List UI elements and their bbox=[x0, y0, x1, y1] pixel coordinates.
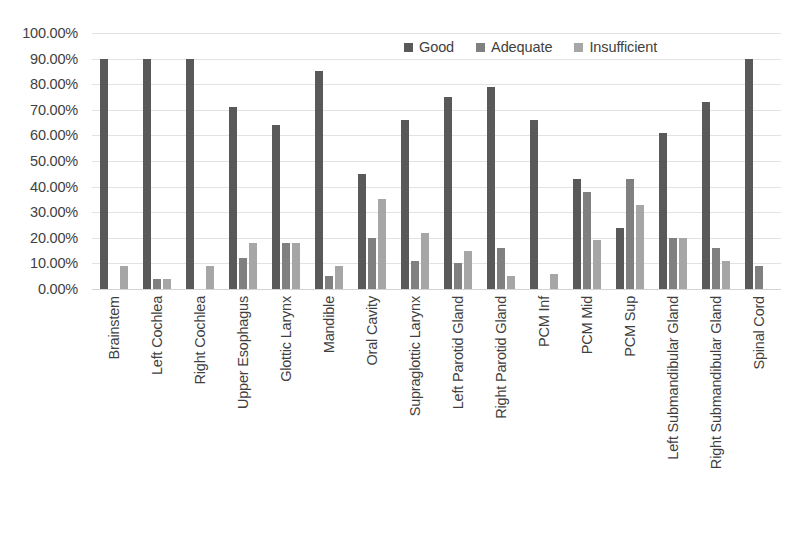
bar-adequate bbox=[325, 276, 333, 289]
legend-label: Adequate bbox=[491, 39, 552, 55]
y-axis: 100.00%90.00%80.00%70.00%60.00%50.00%40.… bbox=[0, 33, 86, 289]
x-axis-tick-label: Supraglottic Larynx bbox=[407, 296, 423, 416]
bar-adequate bbox=[411, 261, 419, 289]
bar-good bbox=[530, 120, 538, 289]
bar-group bbox=[135, 33, 178, 289]
bar-good bbox=[745, 59, 753, 289]
x-axis-category: Glottic Larynx bbox=[264, 292, 307, 522]
bar-good bbox=[616, 228, 624, 289]
y-axis-tick-label: 30.00% bbox=[30, 204, 78, 220]
bar-adequate bbox=[669, 238, 677, 289]
x-axis-tick-label: Spinal Cord bbox=[751, 296, 767, 370]
y-axis-tick-label: 50.00% bbox=[30, 153, 78, 169]
legend-label: Good bbox=[419, 39, 454, 55]
bar-insufficient bbox=[120, 266, 128, 289]
bar-insufficient bbox=[421, 233, 429, 289]
bar-group bbox=[738, 33, 781, 289]
bar-adequate bbox=[153, 279, 161, 289]
bar-adequate bbox=[454, 263, 462, 289]
bar-insufficient bbox=[163, 279, 171, 289]
x-axis-tick-label: Left Cochlea bbox=[149, 296, 165, 375]
x-axis-tick-label: Brainstem bbox=[106, 296, 122, 359]
bar-good bbox=[659, 133, 667, 289]
bar-group bbox=[480, 33, 523, 289]
legend-swatch-icon bbox=[404, 43, 413, 52]
bar-good bbox=[272, 125, 280, 289]
x-axis-tick-label: Mandible bbox=[321, 296, 337, 353]
x-axis-category: Supraglottic Larynx bbox=[393, 292, 436, 522]
x-axis-category: Left Cochlea bbox=[135, 292, 178, 522]
bar-good bbox=[186, 59, 194, 289]
x-axis-category: Brainstem bbox=[92, 292, 135, 522]
bar-insufficient bbox=[593, 240, 601, 289]
x-axis-tick-label: Right Submandibular Gland bbox=[708, 296, 724, 469]
plot-area bbox=[92, 33, 781, 289]
x-axis-tick-label: Upper Esophagus bbox=[235, 296, 251, 409]
x-axis-tick-label: Right Cochlea bbox=[192, 296, 208, 384]
x-axis: BrainstemLeft CochleaRight CochleaUpper … bbox=[92, 292, 781, 522]
bar-good bbox=[444, 97, 452, 289]
x-axis-tick-label: Left Parotid Gland bbox=[450, 296, 466, 409]
bar-insufficient bbox=[378, 199, 386, 289]
bar-group bbox=[92, 33, 135, 289]
bar-adequate bbox=[712, 248, 720, 289]
legend-item-good[interactable]: Good bbox=[404, 39, 454, 55]
bar-adequate bbox=[755, 266, 763, 289]
bar-adequate bbox=[282, 243, 290, 289]
bar-good bbox=[100, 59, 108, 289]
bar-group bbox=[437, 33, 480, 289]
legend-item-adequate[interactable]: Adequate bbox=[476, 39, 552, 55]
y-axis-tick-label: 80.00% bbox=[30, 76, 78, 92]
bar-good bbox=[143, 59, 151, 289]
bar-good bbox=[401, 120, 409, 289]
bar-adequate bbox=[583, 192, 591, 289]
x-axis-category: Mandible bbox=[307, 292, 350, 522]
bar-chart: GoodAdequateInsufficient 100.00%90.00%80… bbox=[0, 0, 797, 536]
y-axis-tick-label: 10.00% bbox=[30, 255, 78, 271]
x-axis-category: Upper Esophagus bbox=[221, 292, 264, 522]
bar-group bbox=[609, 33, 652, 289]
x-axis-tick-label: Right Parotid Gland bbox=[493, 296, 509, 419]
y-axis-tick-label: 60.00% bbox=[30, 127, 78, 143]
bar-insufficient bbox=[679, 238, 687, 289]
bar-good bbox=[573, 179, 581, 289]
x-axis-category: Oral Cavity bbox=[350, 292, 393, 522]
chart-legend: GoodAdequateInsufficient bbox=[404, 36, 657, 58]
bar-adequate bbox=[368, 238, 376, 289]
bar-insufficient bbox=[335, 266, 343, 289]
x-axis-tick-label: Glottic Larynx bbox=[278, 296, 294, 382]
bar-good bbox=[358, 174, 366, 289]
y-axis-tick-label: 0.00% bbox=[38, 281, 78, 297]
bar-insufficient bbox=[292, 243, 300, 289]
bar-insufficient bbox=[507, 276, 515, 289]
bar-group bbox=[264, 33, 307, 289]
y-axis-tick-label: 40.00% bbox=[30, 179, 78, 195]
bar-group bbox=[695, 33, 738, 289]
x-axis-category: Left Submandibular Gland bbox=[652, 292, 695, 522]
bar-adequate bbox=[626, 179, 634, 289]
bar-group bbox=[566, 33, 609, 289]
x-axis-category: Right Parotid Gland bbox=[480, 292, 523, 522]
x-axis-category: Left Parotid Gland bbox=[437, 292, 480, 522]
bar-group bbox=[178, 33, 221, 289]
legend-swatch-icon bbox=[574, 43, 583, 52]
x-axis-tick-label: PCM Sup bbox=[622, 296, 638, 357]
x-axis-tick-label: PCM Mid bbox=[579, 296, 595, 354]
x-axis-category: Spinal Cord bbox=[738, 292, 781, 522]
bar-good bbox=[229, 107, 237, 289]
bar-group bbox=[307, 33, 350, 289]
bar-insufficient bbox=[636, 205, 644, 289]
bar-insufficient bbox=[722, 261, 730, 289]
bar-insufficient bbox=[550, 274, 558, 289]
legend-item-insufficient[interactable]: Insufficient bbox=[574, 39, 657, 55]
x-axis-tick-label: PCM Inf bbox=[536, 296, 552, 347]
x-axis-category: Right Cochlea bbox=[178, 292, 221, 522]
bar-insufficient bbox=[249, 243, 257, 289]
bar-insufficient bbox=[464, 251, 472, 289]
bar-adequate bbox=[239, 258, 247, 289]
x-axis-tick-label: Oral Cavity bbox=[364, 296, 380, 366]
y-axis-tick-label: 20.00% bbox=[30, 230, 78, 246]
bar-good bbox=[487, 87, 495, 289]
bar-adequate bbox=[497, 248, 505, 289]
x-axis-category: PCM Sup bbox=[609, 292, 652, 522]
